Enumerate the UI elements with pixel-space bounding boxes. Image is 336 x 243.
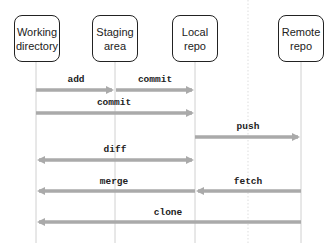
- participant-label-line1: Working: [16, 25, 58, 39]
- participant-label-line1: Staging: [96, 25, 133, 39]
- label-merge: merge: [100, 176, 129, 187]
- participant-label-line2: directory: [16, 39, 58, 53]
- label-add: add: [67, 74, 84, 85]
- participant-label-line1: Local: [182, 25, 208, 39]
- participant-label-line2: repo: [282, 39, 321, 53]
- participant-label-line1: Remote: [282, 25, 321, 39]
- participant-working-directory: Working directory: [14, 15, 60, 62]
- git-workflow-diagram: Working directory Staging area Local rep…: [0, 0, 336, 243]
- label-clone: clone: [154, 207, 183, 218]
- label-push: push: [237, 121, 260, 132]
- label-commit-direct: commit: [97, 97, 131, 108]
- label-fetch: fetch: [234, 176, 263, 187]
- participant-remote-repo: Remote repo: [278, 15, 324, 62]
- label-diff: diff: [104, 144, 127, 155]
- participant-local-repo: Local repo: [172, 15, 218, 62]
- participant-staging-area: Staging area: [92, 15, 138, 62]
- label-commit-staging: commit: [138, 74, 172, 85]
- participant-label-line2: repo: [182, 39, 208, 53]
- participant-label-line2: area: [96, 39, 133, 53]
